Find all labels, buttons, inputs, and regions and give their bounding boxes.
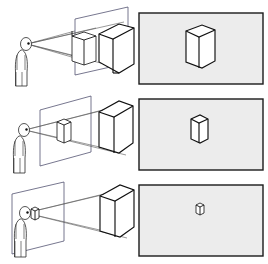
- result-panel-row-3: [139, 185, 263, 256]
- diagram-canvas: .ray { stroke:#555; stroke-width:0.6; fi…: [0, 0, 268, 264]
- scene-row-1: [15, 7, 134, 86]
- eye-point-row-3: [26, 211, 28, 213]
- projected-cube-row-1: [72, 31, 96, 65]
- result-cube-row-3: [196, 203, 204, 215]
- eye-point-row-2: [25, 128, 27, 130]
- object-cube-row-3: [100, 185, 134, 237]
- observer-row-3: [14, 207, 30, 258]
- projected-cube-row-2: [57, 119, 71, 143]
- result-cube-row-1: [186, 25, 215, 68]
- eye-point-row-1: [27, 42, 29, 44]
- observer-row-1: [15, 38, 31, 87]
- perspective-projection-figure: .ray { stroke:#555; stroke-width:0.6; fi…: [0, 0, 268, 264]
- projected-cube-row-3: [31, 207, 39, 220]
- result-panel-row-1: [139, 13, 263, 84]
- object-cube-row-2: [99, 101, 133, 153]
- scene-row-2: [13, 96, 133, 173]
- scene-row-3: [12, 182, 134, 257]
- observer-row-2: [13, 124, 29, 174]
- object-cube-row-1: [99, 24, 134, 73]
- result-cube-row-2: [191, 115, 208, 143]
- result-panel-row-2: [139, 99, 263, 170]
